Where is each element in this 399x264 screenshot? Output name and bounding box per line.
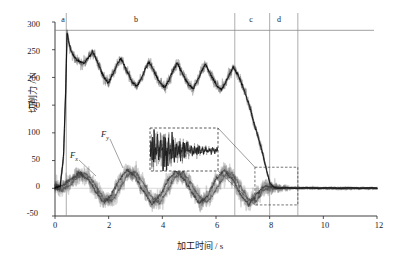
- xtick-label: 2: [100, 220, 118, 230]
- xtick-label: 8: [262, 220, 280, 230]
- region-label-b: b: [128, 15, 144, 24]
- region-label-c: c: [243, 15, 259, 24]
- y-axis-title: 切削力 / N: [26, 45, 39, 141]
- xtick-label: 6: [208, 220, 226, 230]
- xtick-label: 10: [316, 220, 334, 230]
- ytick-label: 300: [14, 19, 40, 29]
- xtick-label: 12: [370, 220, 388, 230]
- cutting-force-chart: 300 250 200 150 100 50 0 -50 0 2 4 6 8 1…: [0, 0, 399, 264]
- series-label-fy: Fy: [101, 129, 109, 141]
- ytick-label: 0: [14, 181, 40, 191]
- ytick-label: 50: [14, 154, 40, 164]
- x-axis-title: 加工时间 / s: [140, 239, 260, 252]
- ytick-label: -50: [12, 208, 38, 218]
- region-label-a: a: [55, 15, 71, 24]
- fy-leader-line: [110, 139, 123, 168]
- series-label-fx-sub: x: [75, 156, 78, 162]
- xtick-label: 4: [154, 220, 172, 230]
- region-label-d: d: [271, 15, 287, 24]
- series-label-fx: Fx: [70, 150, 78, 162]
- series-label-fy-sub: y: [106, 135, 109, 141]
- inset-leader-line: [218, 128, 255, 167]
- xtick-label: 0: [46, 220, 64, 230]
